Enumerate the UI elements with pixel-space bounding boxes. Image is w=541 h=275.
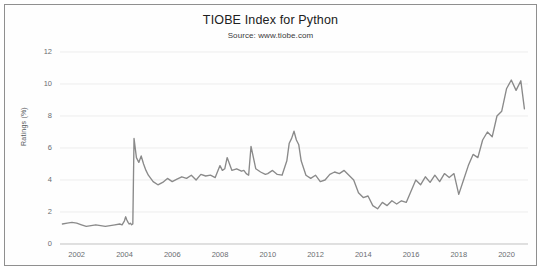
line-chart-svg <box>5 5 537 266</box>
gridlines <box>60 52 528 244</box>
data-series-line-python <box>62 80 524 226</box>
chart-figure-frame: TIOBE Index for Python Source: www.tiobe… <box>4 4 537 266</box>
plot-area: Ratings (%) 024681012 200220042006200820… <box>5 5 537 266</box>
